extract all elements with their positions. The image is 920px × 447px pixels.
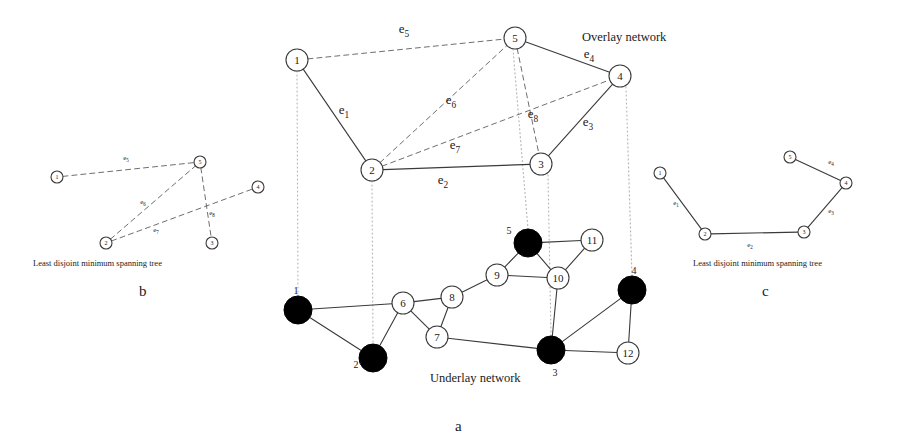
underlay-edge-7-8 <box>441 307 448 326</box>
underlay-edge-7-3 <box>448 338 537 348</box>
underlay-edge-1-2 <box>310 318 361 351</box>
panel-c-node-label-4: 4 <box>845 180 848 186</box>
projection-line-5 <box>513 49 528 229</box>
underlay-node-label-9: 9 <box>494 269 500 281</box>
underlay-node-2[interactable] <box>359 344 387 372</box>
panel-c-edge-e3 <box>808 188 842 228</box>
panel-b-edge-label-e7: e7 <box>153 226 159 235</box>
panel-b-mst: 12345e5e6e7e8 <box>51 154 264 249</box>
panel-b-node-label-2: 2 <box>105 240 108 246</box>
underlay-edge-3-4 <box>562 298 621 341</box>
overlay-node-label-1: 1 <box>294 54 300 66</box>
overlay-edge-label-e6: e6 <box>446 92 457 110</box>
panel-c-node-label-2: 2 <box>704 231 707 237</box>
underlay-edge-10-11 <box>565 248 584 270</box>
overlay-edge-label-e2: e2 <box>438 172 449 190</box>
panel-b-node-label-1: 1 <box>56 174 59 180</box>
overlay-network: 12345e1e2e3e4e5e6e7e8 <box>286 21 631 190</box>
underlay-edge-3-12 <box>565 351 617 353</box>
underlay-network: 123456789101112 <box>284 225 646 378</box>
panel-b-node-label-5: 5 <box>199 159 202 165</box>
underlay-network-caption: Underlay network <box>430 371 521 386</box>
overlay-node-label-4: 4 <box>617 70 623 82</box>
underlay-node-label-4: 4 <box>632 265 637 276</box>
projection-line-1 <box>297 71 298 296</box>
overlay-edge-label-e3: e3 <box>583 114 594 132</box>
underlay-node-label-10: 10 <box>553 272 565 284</box>
overlay-edge-e5 <box>308 39 504 59</box>
panel-c-mst: 12345e1e2e3e4 <box>654 151 852 250</box>
underlay-edge-5-10 <box>537 254 551 270</box>
network-figure: 12345e1e2e3e4e5e6e7e81234567891011121234… <box>0 0 920 447</box>
underlay-node-1[interactable] <box>284 296 312 324</box>
underlay-edge-4-12 <box>629 304 631 342</box>
underlay-node-5[interactable] <box>514 229 542 257</box>
overlay-edge-e1 <box>303 69 366 161</box>
underlay-edge-9-5 <box>505 253 519 267</box>
panel-c-edge-label-e1: e1 <box>673 199 679 208</box>
overlay-edge-e3 <box>548 84 612 156</box>
overlay-edge-label-e7: e7 <box>450 137 461 155</box>
panel-c-edge-label-e4: e4 <box>828 158 834 167</box>
underlay-node-label-1: 1 <box>294 285 299 296</box>
underlay-node-label-7: 7 <box>434 331 440 343</box>
underlay-edge-1-6 <box>312 304 392 309</box>
panel-c-edge-label-e3: e3 <box>828 207 834 216</box>
projection-line-4 <box>626 87 632 276</box>
panel-label-a: a <box>455 418 462 435</box>
underlay-edge-5-11 <box>542 241 581 243</box>
underlay-node-label-8: 8 <box>449 291 455 303</box>
mst-caption-b: Least disjoint minimum spanning tree <box>33 258 162 268</box>
underlay-edge-6-8 <box>414 298 441 301</box>
projection-line-3 <box>548 175 551 336</box>
overlay-edge-e6 <box>380 45 507 162</box>
overlay-node-label-5: 5 <box>512 32 518 44</box>
panel-b-edge-e7 <box>112 189 253 241</box>
underlay-node-label-2: 2 <box>354 359 359 370</box>
overlay-network-caption: Overlay network <box>582 30 666 45</box>
panel-b-edge-label-e5: e5 <box>123 154 129 163</box>
panel-label-c: c <box>762 283 769 300</box>
overlay-edge-label-e1: e1 <box>339 102 350 120</box>
overlay-edge-e2 <box>383 164 530 169</box>
panel-b-edge-label-e6: e6 <box>140 198 146 207</box>
panel-c-node-label-3: 3 <box>803 229 806 235</box>
panel-b-node-label-3: 3 <box>211 240 214 246</box>
underlay-node-4[interactable] <box>618 276 646 304</box>
panel-c-node-label-1: 1 <box>659 170 662 176</box>
projection-line-2 <box>372 181 373 344</box>
projection-lines <box>297 49 632 344</box>
underlay-edge-10-3 <box>552 289 557 336</box>
underlay-node-label-3: 3 <box>553 367 558 378</box>
panel-b-edge-e8 <box>201 168 211 237</box>
overlay-edge-e7 <box>382 80 609 166</box>
panel-label-b: b <box>139 283 147 300</box>
underlay-node-label-6: 6 <box>400 297 406 309</box>
overlay-node-label-3: 3 <box>538 158 544 170</box>
underlay-edge-2-6 <box>380 313 398 346</box>
overlay-edge-label-e5: e5 <box>399 21 410 39</box>
overlay-node-label-2: 2 <box>369 164 375 176</box>
underlay-edge-8-9 <box>462 280 487 292</box>
panel-c-node-label-5: 5 <box>789 154 792 160</box>
panel-b-node-label-4: 4 <box>257 184 260 190</box>
underlay-node-3[interactable] <box>537 336 565 364</box>
underlay-node-label-12: 12 <box>623 347 634 359</box>
panel-c-edge-label-e2: e2 <box>747 241 753 250</box>
underlay-node-label-5: 5 <box>507 225 512 236</box>
panel-c-edge-e2 <box>711 232 798 234</box>
panel-b-edge-label-e8: e8 <box>209 209 215 218</box>
underlay-edge-9-10 <box>508 276 547 278</box>
underlay-node-label-11: 11 <box>587 234 598 246</box>
underlay-edge-6-7 <box>411 311 429 329</box>
panel-c-edge-e1 <box>664 178 702 229</box>
overlay-edge-e4 <box>525 42 609 73</box>
mst-caption-c: Least disjoint minimum spanning tree <box>693 258 822 268</box>
overlay-edge-label-e4: e4 <box>584 46 595 64</box>
overlay-edge-label-e8: e8 <box>528 106 539 124</box>
panel-b-edge-e5 <box>63 163 194 177</box>
